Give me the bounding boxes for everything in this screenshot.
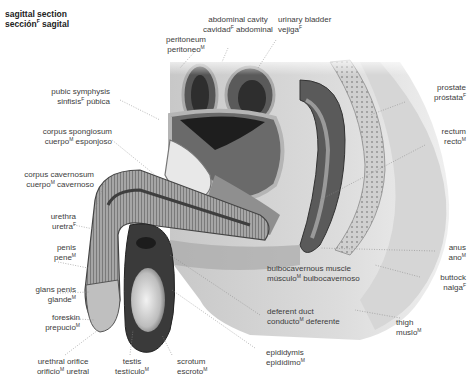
label-urethra: urethra uretraF (20, 212, 76, 231)
label-scrotum: scrotum escrotoM (177, 357, 207, 376)
anatomy-diagram: sagittal section secciónF sagital perito… (0, 0, 475, 391)
diagram-title: sagittal section secciónF sagital (5, 9, 69, 29)
label-foreskin: foreskin prepucioM (10, 313, 80, 332)
label-urethral-orifice: urethral orifice orificioM uretral (28, 357, 98, 376)
label-anus: anus anoM (420, 243, 466, 262)
label-corpus-cavernosum: corpus cavernosum cuerpoM cavernoso (2, 170, 94, 189)
label-glans-penis: glans penis glandeM (10, 285, 76, 304)
label-corpus-spongiosum: corpus spongiosum cuerpoM esponjoso (20, 127, 112, 146)
label-bulbocavernous-muscle: bulbocavernous muscle músculoM bulbocave… (267, 264, 360, 283)
label-peritoneum: peritoneum peritoneoM (150, 35, 222, 54)
label-urinary-bladder: urinary bladder vejigaF (278, 15, 331, 34)
label-penis: penis peneM (20, 243, 76, 262)
glans-shape (86, 280, 120, 332)
label-buttock: buttock nalgaF (410, 273, 466, 292)
label-thigh: thigh musloM (396, 318, 422, 337)
label-rectum: rectum rectoM (420, 127, 466, 146)
label-abdominal-cavity: abdominal cavity cavidadF abdominal (198, 15, 278, 34)
label-testis: testis testículoM (104, 357, 160, 376)
label-epididymis: epididymis epidídimoM (266, 348, 305, 367)
label-deferent-duct: deferent duct conductoM deferente (267, 307, 340, 326)
label-pubic-symphysis: pubic symphysis sinfisisF púbica (30, 87, 110, 106)
label-prostate: prostate próstataF (400, 83, 466, 102)
testis-shape (131, 268, 165, 332)
title-spanish: secciónF sagital (5, 19, 69, 29)
